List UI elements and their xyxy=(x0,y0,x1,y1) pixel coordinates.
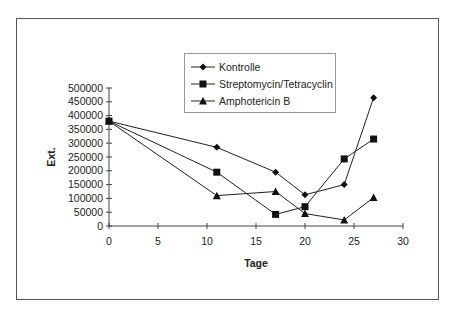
y-tick-label: 250000 xyxy=(68,151,103,163)
diamond-marker-icon xyxy=(370,94,377,101)
y-tick-label: 500000 xyxy=(68,82,103,94)
y-tick-label: 400000 xyxy=(68,109,103,121)
square-marker-icon xyxy=(341,155,348,162)
x-tick-label: 20 xyxy=(299,235,311,247)
legend-label: Streptomycin/Tetracyclin xyxy=(219,78,333,90)
x-tick-label: 30 xyxy=(397,235,409,247)
y-tick-label: 300000 xyxy=(68,137,103,149)
legend-label: Amphotericin B xyxy=(219,95,290,107)
y-tick-label: 0 xyxy=(97,220,103,232)
x-tick-label: 10 xyxy=(201,235,213,247)
y-tick-label: 150000 xyxy=(68,178,103,190)
square-marker-icon xyxy=(370,136,377,143)
triangle-marker-icon xyxy=(191,95,215,107)
series-line xyxy=(109,121,374,220)
y-axis-title: Ext. xyxy=(45,147,57,166)
legend: Kontrolle Streptomycin/Tetracyclin Ampho… xyxy=(184,53,336,113)
y-tick-label: 100000 xyxy=(68,192,103,204)
legend-label: Kontrolle xyxy=(219,61,260,73)
y-tick-label: 350000 xyxy=(68,123,103,135)
triangle-marker-icon xyxy=(301,210,309,218)
square-marker-icon xyxy=(302,203,309,210)
diamond-marker-icon xyxy=(213,144,220,151)
y-tick-label: 200000 xyxy=(68,164,103,176)
square-marker-icon xyxy=(213,169,220,176)
x-tick-label: 15 xyxy=(250,235,262,247)
triangle-marker-icon xyxy=(370,194,378,202)
x-tick-label: 25 xyxy=(348,235,360,247)
x-axis-title: Tage xyxy=(244,257,268,269)
x-tick-label: 5 xyxy=(155,235,161,247)
y-tick-label: 50000 xyxy=(74,206,103,218)
x-tick-label: 0 xyxy=(106,235,112,247)
legend-item-kontrolle: Kontrolle xyxy=(185,59,260,75)
series-line xyxy=(109,121,374,214)
square-marker-icon xyxy=(191,78,215,90)
legend-item-streptomycin: Streptomycin/Tetracyclin xyxy=(185,76,333,92)
legend-item-amphotericin: Amphotericin B xyxy=(185,93,290,109)
diamond-marker-icon xyxy=(341,181,348,188)
diamond-marker-icon xyxy=(191,61,215,73)
square-marker-icon xyxy=(272,211,279,218)
line-chart: 0500001000001500002000002500003000003500… xyxy=(0,0,453,318)
y-tick-label: 450000 xyxy=(68,95,103,107)
